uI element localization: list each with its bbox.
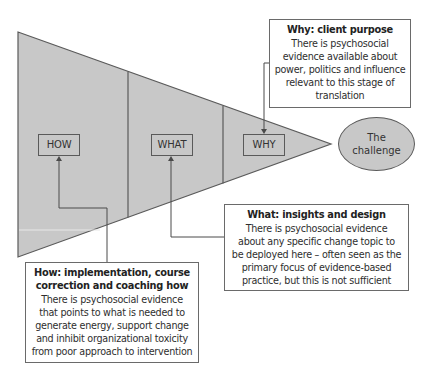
challenge-ellipse: The challenge [338,117,415,171]
why-callout: Why: client purpose There is psychosocia… [269,19,411,108]
how-label: HOW [47,139,72,150]
what-callout-title: What: insights and design [228,208,405,221]
what-label: WHAT [158,139,187,150]
what-callout-body: There is psychosocial evidence about any… [228,222,405,287]
what-label-box: WHAT [151,134,193,156]
what-callout: What: insights and design There is psych… [224,204,409,291]
challenge-label: The challenge [352,131,401,157]
how-callout-title: How: implementation, course correction a… [29,266,195,292]
why-callout-title: Why: client purpose [273,23,407,36]
how-callout: How: implementation, course correction a… [25,262,199,363]
how-label-box: HOW [38,134,80,156]
why-label: WHY [253,139,276,150]
why-label-box: WHY [243,134,285,156]
how-callout-body: There is psychosocial evidence that poin… [29,293,195,358]
why-callout-body: There is psychosocial evidence available… [273,37,407,102]
